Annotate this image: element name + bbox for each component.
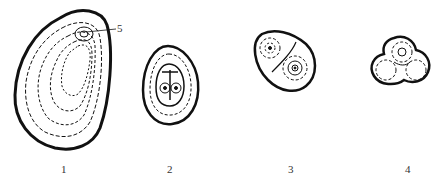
- granule-2: [143, 46, 198, 124]
- granule-3: [255, 31, 315, 91]
- granule-4: [372, 37, 430, 84]
- granule-1: [15, 11, 116, 150]
- panel-label-1: 1: [61, 163, 67, 175]
- panel-label-2: 2: [167, 163, 173, 175]
- panel-label-4: 4: [405, 163, 411, 175]
- figure-drawing: [0, 0, 437, 188]
- callout-label-hilum: 5: [117, 22, 123, 34]
- panel-label-3: 3: [288, 163, 294, 175]
